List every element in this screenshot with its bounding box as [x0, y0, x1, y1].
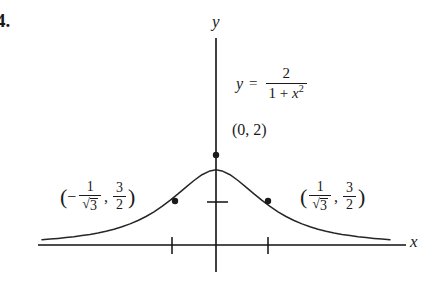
- equation-label: y = 2 1 + x2: [236, 66, 309, 101]
- x-axis-label: x: [410, 232, 418, 252]
- equation-equals-sign: =: [249, 76, 257, 91]
- left-inflection-label: ( − 1 √ 3 , 3 2 ): [60, 180, 135, 213]
- left-label-y-denominator: 2: [113, 196, 126, 212]
- left-label-close-paren: ): [128, 186, 135, 208]
- right-label-comma: ,: [334, 189, 338, 205]
- right-label-radicand: 3: [320, 198, 328, 213]
- right-label-y-fraction: 3 2: [343, 181, 356, 212]
- right-label-x-numerator: 1: [314, 180, 327, 195]
- graph-plot: [0, 0, 430, 281]
- left-label-open-paren: (: [60, 186, 67, 208]
- right-inflection-label: ( 1 √ 3 , 3 2 ): [300, 180, 365, 213]
- left-label-radicand: 3: [90, 198, 98, 213]
- right-label-radical-icon: √: [312, 197, 320, 213]
- right-label-x-denominator: √ 3: [309, 195, 331, 213]
- left-label-x-numerator: 1: [84, 180, 97, 195]
- point-maximum: [213, 152, 219, 158]
- right-label-close-paren: ): [358, 186, 365, 208]
- denominator-one: 1: [269, 85, 277, 101]
- left-label-comma: ,: [104, 189, 108, 205]
- equation-fraction: 2 1 + x2: [266, 66, 307, 101]
- denominator-variable: x: [292, 85, 299, 101]
- maximum-point-label: (0, 2): [232, 122, 267, 138]
- right-label-x-fraction: 1 √ 3: [309, 180, 331, 213]
- left-label-x-denominator: √ 3: [79, 195, 101, 213]
- y-axis-label: y: [212, 12, 220, 32]
- denominator-exponent: 2: [299, 83, 304, 94]
- equation-numerator: 2: [279, 66, 293, 83]
- left-label-minus-sign: −: [67, 189, 76, 205]
- left-label-y-numerator: 3: [113, 181, 126, 196]
- figure-container: 4. y x y = 2 1 + x2: [0, 0, 430, 281]
- right-label-open-paren: (: [300, 186, 307, 208]
- left-label-y-fraction: 3 2: [113, 181, 126, 212]
- right-label-y-denominator: 2: [343, 196, 356, 212]
- equation-lhs: y: [236, 76, 243, 92]
- equation-denominator: 1 + x2: [266, 83, 307, 101]
- left-label-x-fraction: 1 √ 3: [79, 180, 101, 213]
- point-inflection-right: [265, 198, 271, 204]
- right-label-y-numerator: 3: [343, 181, 356, 196]
- point-inflection-left: [172, 198, 178, 204]
- left-label-radical-icon: √: [82, 197, 90, 213]
